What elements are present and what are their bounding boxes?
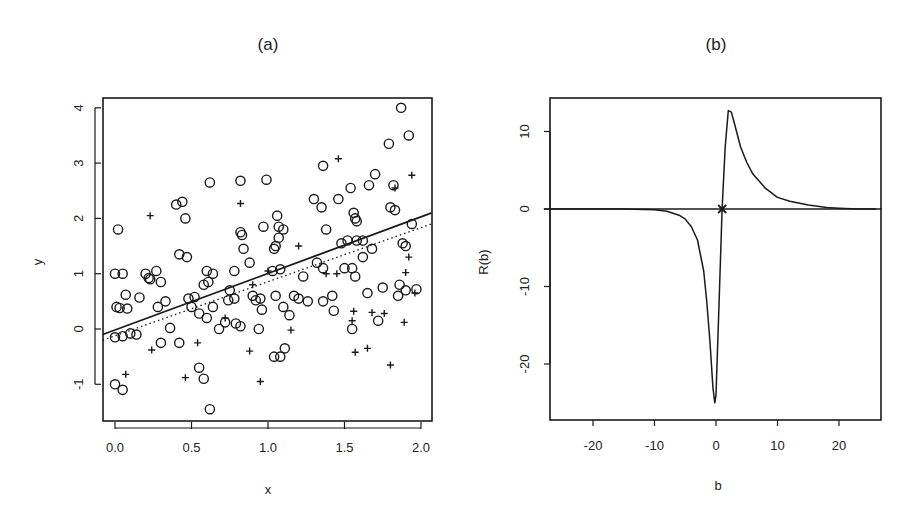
circle-marker-icon bbox=[352, 217, 361, 226]
circle-marker-icon bbox=[156, 277, 165, 286]
panel-a-y-axis: -101234 bbox=[71, 104, 101, 390]
circle-marker-icon bbox=[348, 324, 357, 333]
plus-marker-icon bbox=[333, 270, 340, 277]
y-tick-label: -10 bbox=[517, 277, 532, 296]
plus-marker-icon bbox=[323, 270, 330, 277]
circle-marker-icon bbox=[395, 280, 404, 289]
plus-marker-icon bbox=[182, 374, 189, 381]
circle-marker-icon bbox=[121, 290, 130, 299]
circle-marker-icon bbox=[230, 266, 239, 275]
circle-marker-icon bbox=[205, 178, 214, 187]
circle-marker-icon bbox=[328, 291, 337, 300]
circle-marker-icon bbox=[254, 324, 263, 333]
circle-marker-icon bbox=[257, 305, 266, 314]
circle-marker-icon bbox=[363, 288, 372, 297]
circle-marker-icon bbox=[280, 344, 289, 353]
plus-marker-icon bbox=[194, 339, 201, 346]
y-tick-label: -1 bbox=[71, 379, 86, 391]
circle-marker-icon bbox=[236, 176, 245, 185]
circle-marker-icon bbox=[309, 194, 318, 203]
circle-marker-icon bbox=[346, 183, 355, 192]
circle-marker-icon bbox=[285, 311, 294, 320]
x-tick-label: 1.5 bbox=[335, 440, 353, 455]
panel-a-x-label: x bbox=[265, 482, 272, 497]
circle-marker-icon bbox=[358, 253, 367, 262]
x-tick-label: 0.0 bbox=[106, 440, 124, 455]
circle-marker-icon bbox=[317, 203, 326, 212]
circle-marker-icon bbox=[404, 131, 413, 140]
plus-marker-icon bbox=[364, 345, 371, 352]
circle-marker-icon bbox=[181, 214, 190, 223]
plus-marker-icon bbox=[148, 347, 155, 354]
circle-marker-icon bbox=[374, 316, 383, 325]
y-tick-label: -20 bbox=[517, 355, 532, 374]
circle-marker-icon bbox=[236, 228, 245, 237]
panel-b-x-label: b bbox=[714, 478, 721, 493]
circle-marker-icon bbox=[195, 363, 204, 372]
panel-a-plot-frame bbox=[103, 98, 432, 421]
x-tick-label: 10 bbox=[770, 438, 784, 453]
circle-marker-icon bbox=[351, 272, 360, 281]
circle-marker-icon bbox=[303, 297, 312, 306]
circle-marker-icon bbox=[245, 258, 254, 267]
circle-marker-icon bbox=[371, 170, 380, 179]
plus-marker-icon bbox=[381, 310, 388, 317]
plus-marker-icon bbox=[246, 348, 253, 355]
circle-marker-icon bbox=[205, 405, 214, 414]
circle-marker-icon bbox=[175, 338, 184, 347]
circle-marker-icon bbox=[334, 194, 343, 203]
panel-b-plot-frame bbox=[550, 98, 881, 420]
circle-marker-icon bbox=[367, 244, 376, 253]
circle-marker-icon bbox=[259, 222, 268, 231]
circle-marker-icon bbox=[378, 283, 387, 292]
plus-marker-icon bbox=[147, 212, 154, 219]
x-tick-label: -20 bbox=[584, 438, 603, 453]
panel-b-curves bbox=[544, 111, 882, 403]
panel-a-data-points bbox=[110, 103, 421, 414]
panel-b-y-label: R(b) bbox=[476, 249, 491, 274]
plus-marker-icon bbox=[401, 319, 408, 326]
circle-marker-icon bbox=[299, 272, 308, 281]
circle-marker-icon bbox=[322, 225, 331, 234]
panel-a-title: (a) bbox=[258, 35, 279, 54]
circle-marker-icon bbox=[202, 313, 211, 322]
circle-marker-icon bbox=[118, 385, 127, 394]
circle-marker-icon bbox=[135, 293, 144, 302]
plus-marker-icon bbox=[287, 327, 294, 334]
panel-b-y-axis: -20-10010 bbox=[517, 124, 550, 373]
y-tick-label: 10 bbox=[517, 124, 532, 138]
circle-marker-icon bbox=[165, 323, 174, 332]
plus-marker-icon bbox=[257, 378, 264, 385]
circle-marker-icon bbox=[239, 244, 248, 253]
circle-marker-icon bbox=[397, 103, 406, 112]
panel-b-title: (b) bbox=[706, 35, 727, 54]
x-tick-label: 2.0 bbox=[412, 440, 430, 455]
panel-a-y-label: y bbox=[30, 258, 45, 265]
x-tick-label: 20 bbox=[832, 438, 846, 453]
circle-marker-icon bbox=[270, 244, 279, 253]
y-tick-label: 0 bbox=[517, 205, 532, 212]
panel-a-scatter-plot: (a) -101234 0.00.51.01.52.0 x y bbox=[30, 35, 432, 497]
plus-marker-icon bbox=[402, 269, 409, 276]
y-tick-label: 0 bbox=[71, 325, 86, 332]
x-tick-label: 1.0 bbox=[259, 440, 277, 455]
plus-marker-icon bbox=[222, 314, 229, 321]
circle-marker-icon bbox=[318, 161, 327, 170]
circle-marker-icon bbox=[132, 330, 141, 339]
y-tick-label: 2 bbox=[71, 215, 86, 222]
circle-marker-icon bbox=[113, 225, 122, 234]
circle-marker-icon bbox=[161, 297, 170, 306]
plus-marker-icon bbox=[122, 371, 129, 378]
circle-marker-icon bbox=[279, 302, 288, 311]
plus-marker-icon bbox=[387, 361, 394, 368]
circle-marker-icon bbox=[262, 175, 271, 184]
circle-marker-icon bbox=[318, 297, 327, 306]
panel-b-x-axis: -20-1001020 bbox=[584, 420, 847, 453]
plus-marker-icon bbox=[349, 317, 356, 324]
circle-marker-icon bbox=[271, 291, 280, 300]
circle-marker-icon bbox=[156, 338, 165, 347]
y-tick-label: 4 bbox=[71, 104, 86, 111]
panel-b-line-plot: (b) -20-10010 -20-1001020 b R(b) bbox=[476, 35, 882, 493]
plus-marker-icon bbox=[350, 308, 357, 315]
r-of-b-curve bbox=[550, 111, 876, 403]
